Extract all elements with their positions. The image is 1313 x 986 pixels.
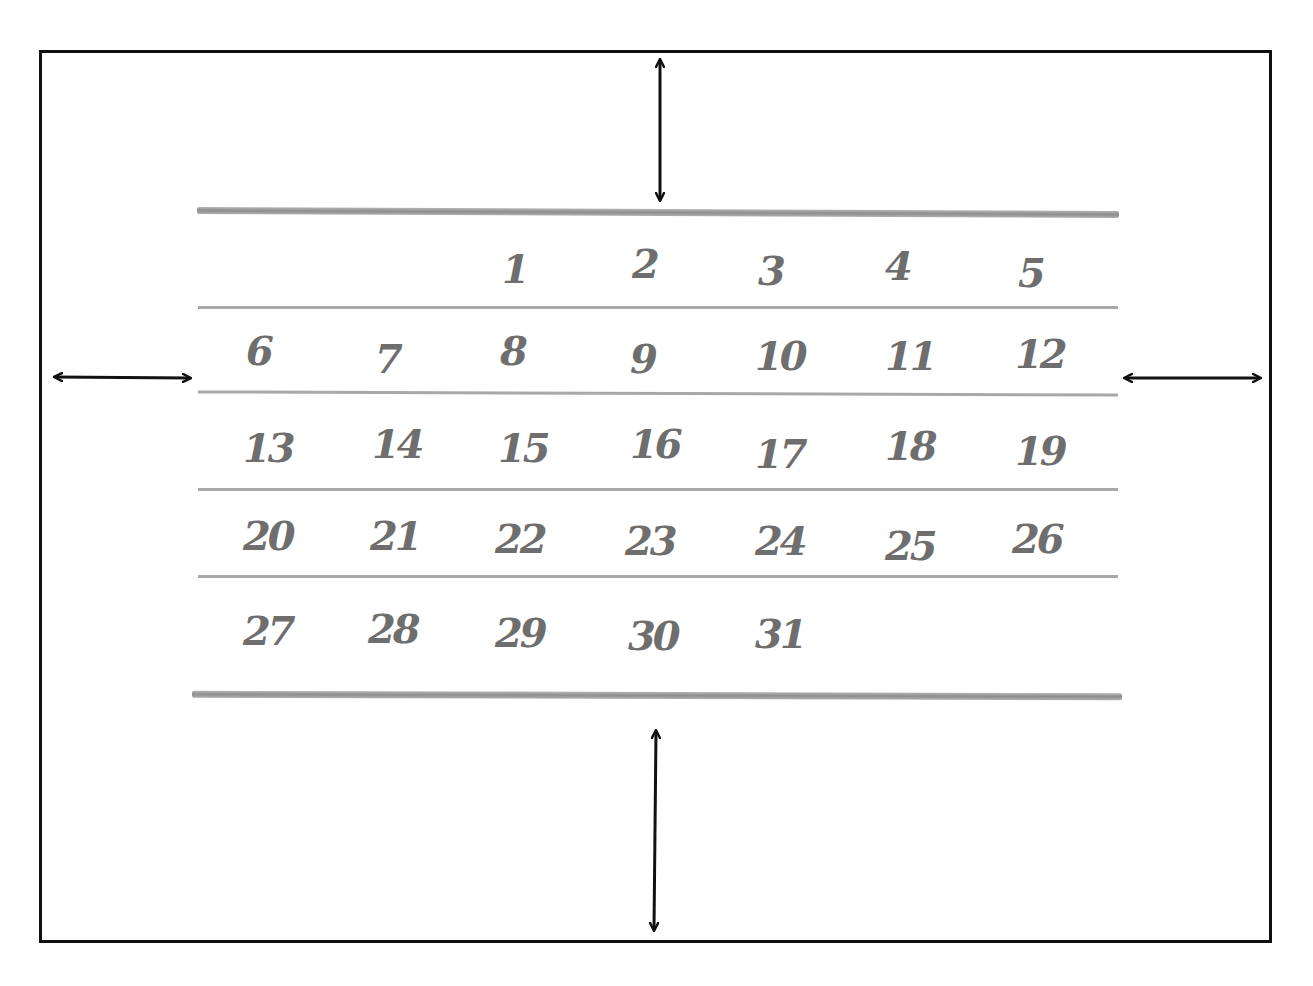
right-margin-arrow-icon bbox=[0, 0, 1313, 986]
